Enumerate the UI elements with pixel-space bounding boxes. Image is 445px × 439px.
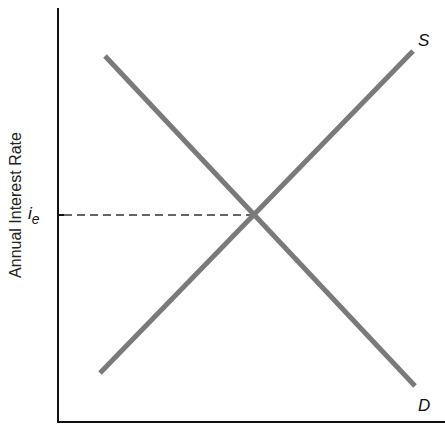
demand-label: D — [418, 396, 430, 415]
supply-label: S — [418, 31, 430, 50]
supply-demand-chart: S D ie Annual Interest Rate — [0, 0, 445, 439]
y-axis-label: Annual Interest Rate — [7, 132, 24, 278]
demand-curve — [105, 56, 415, 386]
equilibrium-rate-label: ie — [28, 204, 40, 227]
